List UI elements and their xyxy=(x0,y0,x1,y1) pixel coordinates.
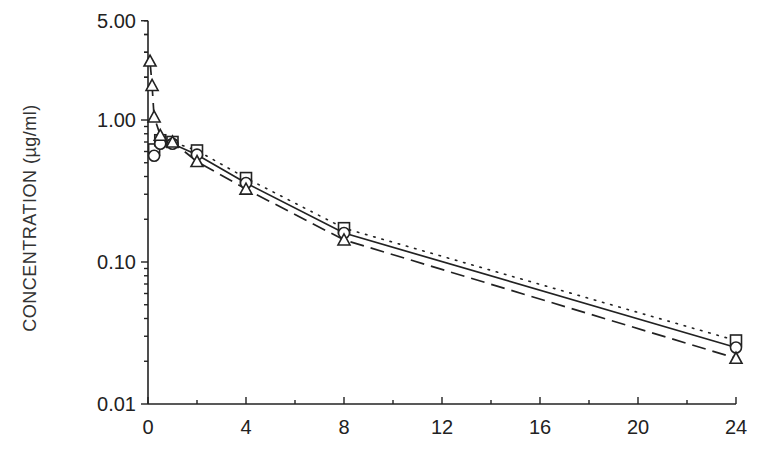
y-tick-label: 0.10 xyxy=(97,251,136,273)
y-tick-label: 5.00 xyxy=(97,10,136,32)
x-tick-label: 4 xyxy=(240,416,251,438)
square-series-line xyxy=(154,140,736,340)
triangle-series-line xyxy=(150,61,736,358)
x-tick-label: 24 xyxy=(725,416,747,438)
x-tick-label: 12 xyxy=(431,416,453,438)
triangle-marker xyxy=(730,352,742,363)
x-tick-label: 8 xyxy=(338,416,349,438)
y-tick-label: 0.01 xyxy=(97,393,136,415)
triangle-marker xyxy=(144,55,156,66)
pk-concentration-chart: 048121620240.010.101.005.00 CONCENTRATIO… xyxy=(0,0,766,460)
x-tick-label: 20 xyxy=(627,416,649,438)
y-axis-label: CONCENTRATION (µg/ml) xyxy=(20,104,40,332)
triangle-marker xyxy=(148,111,160,122)
circle-marker xyxy=(149,150,160,161)
x-tick-label: 16 xyxy=(529,416,551,438)
y-tick-label: 1.00 xyxy=(97,109,136,131)
x-tick-label: 0 xyxy=(142,416,153,438)
axes: 048121620240.010.101.005.00 xyxy=(97,10,747,438)
plot-series xyxy=(144,55,742,363)
